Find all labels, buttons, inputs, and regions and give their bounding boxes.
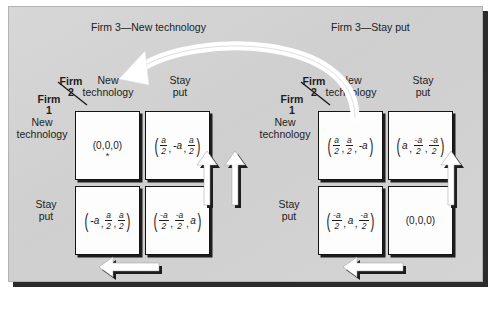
left-matrix-up-arrow xyxy=(195,149,221,207)
payoff-value: (a2,a2,-a) xyxy=(326,136,375,156)
best-response-curved-arrow xyxy=(105,29,405,121)
payoff-cell[interactable]: (-a2,a,-a2) xyxy=(318,186,383,255)
payoff-matrix-left: (0,0,0)* (a2,-a,a2) (-a,a2,a2) (-a2,-a2,… xyxy=(75,111,211,255)
payoff-cell[interactable]: (a2,a2,-a) xyxy=(318,111,383,180)
payoff-value: (-a2,-a2,a) xyxy=(152,211,203,231)
payoff-value: (0,0,0) xyxy=(406,215,436,226)
right-matrix-left-arrow xyxy=(341,255,407,281)
row-header-stay-left: Stay put xyxy=(23,199,69,222)
figure-panel: Firm 3—New technology Firm 3—Stay put Fi… xyxy=(8,6,483,282)
payoff-value: (0,0,0)* xyxy=(93,140,123,151)
payoff-value: (-a2,a,-a2) xyxy=(325,211,376,231)
row-header-stay-right: Stay put xyxy=(266,199,312,222)
payoff-value: (-a,a2,a2) xyxy=(83,211,132,231)
left-matrix-side-up-arrow xyxy=(223,149,249,207)
right-matrix-up-arrow xyxy=(439,149,465,207)
left-matrix-left-arrow xyxy=(97,255,163,281)
payoff-cell[interactable]: (-a,a2,a2) xyxy=(75,186,140,255)
payoff-cell[interactable]: (0,0,0)* xyxy=(75,111,140,180)
firm1-label-left: Firm 1 xyxy=(31,94,67,116)
figure-canvas: Firm 3—New technology Firm 3—Stay put Fi… xyxy=(0,0,495,329)
row-header-new-left: New technology xyxy=(11,117,73,140)
payoff-matrix-right: (a2,a2,-a) (a,-a2,-a2) (-a2,a,-a2) (0,0,… xyxy=(318,111,454,255)
